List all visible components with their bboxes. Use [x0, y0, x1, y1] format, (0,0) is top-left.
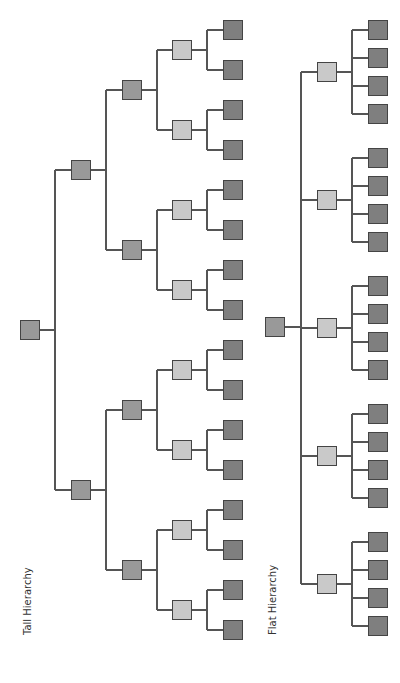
connector-line	[337, 71, 352, 73]
connector-line	[301, 327, 317, 329]
leaf-node	[223, 540, 243, 560]
tree-node	[71, 480, 91, 500]
connector-line	[301, 583, 317, 585]
connector-line	[157, 49, 172, 51]
connector-line	[352, 541, 368, 543]
leaf-node	[368, 560, 388, 580]
connector-line	[285, 326, 301, 328]
connector-line	[352, 497, 368, 499]
connector-line	[157, 369, 172, 371]
connector-line	[352, 241, 368, 243]
connector-line	[157, 529, 172, 531]
connector-line	[352, 441, 368, 443]
connector-line	[352, 369, 368, 371]
connector-line	[192, 369, 207, 371]
leaf-node	[368, 76, 388, 96]
connector-line	[351, 30, 353, 114]
leaf-node	[368, 332, 388, 352]
tree-node	[172, 440, 192, 460]
connector-line	[106, 89, 122, 91]
branch-node	[317, 574, 337, 594]
connector-line	[352, 341, 368, 343]
connector-line	[157, 129, 172, 131]
leaf-node	[368, 204, 388, 224]
branch-node	[317, 190, 337, 210]
connector-line	[351, 414, 353, 498]
connector-line	[157, 449, 172, 451]
connector-line	[351, 158, 353, 242]
connector-line	[142, 569, 157, 571]
tree-node	[122, 400, 142, 420]
connector-line	[55, 489, 71, 491]
connector-line	[206, 270, 208, 310]
connector-line	[352, 185, 368, 187]
connector-line	[207, 309, 223, 311]
leaf-node	[223, 60, 243, 80]
connector-line	[206, 190, 208, 230]
leaf-node	[368, 176, 388, 196]
connector-line	[351, 542, 353, 626]
tree-node	[122, 80, 142, 100]
tree-node	[172, 600, 192, 620]
connector-line	[157, 209, 172, 211]
connector-line	[192, 49, 207, 51]
connector-line	[54, 170, 56, 490]
connector-line	[142, 249, 157, 251]
tree-node	[172, 520, 192, 540]
tree-node	[172, 360, 192, 380]
connector-line	[337, 583, 352, 585]
connector-line	[91, 169, 106, 171]
tree-node	[71, 160, 91, 180]
connector-line	[206, 30, 208, 70]
connector-line	[207, 429, 223, 431]
connector-line	[300, 72, 302, 584]
connector-line	[142, 89, 157, 91]
root-node	[265, 317, 285, 337]
leaf-node	[223, 260, 243, 280]
leaf-node	[368, 588, 388, 608]
connector-line	[352, 597, 368, 599]
leaf-node	[368, 48, 388, 68]
connector-line	[105, 410, 107, 570]
connector-line	[352, 85, 368, 87]
connector-line	[352, 625, 368, 627]
branch-node	[317, 318, 337, 338]
connector-line	[301, 199, 317, 201]
connector-line	[207, 629, 223, 631]
leaf-node	[368, 148, 388, 168]
connector-line	[206, 350, 208, 390]
leaf-node	[368, 488, 388, 508]
connector-line	[206, 590, 208, 630]
connector-line	[352, 113, 368, 115]
connector-line	[91, 489, 106, 491]
connector-line	[156, 530, 158, 610]
connector-line	[351, 286, 353, 370]
flat-hierarchy-label: Flat Hierarchy	[267, 565, 278, 635]
connector-line	[337, 455, 352, 457]
leaf-node	[223, 100, 243, 120]
connector-line	[207, 29, 223, 31]
connector-line	[207, 189, 223, 191]
connector-line	[40, 329, 55, 331]
connector-line	[55, 169, 71, 171]
leaf-node	[368, 460, 388, 480]
connector-line	[105, 90, 107, 250]
connector-line	[207, 109, 223, 111]
connector-line	[192, 209, 207, 211]
connector-line	[207, 149, 223, 151]
leaf-node	[223, 460, 243, 480]
leaf-node	[368, 104, 388, 124]
tree-node	[172, 200, 192, 220]
connector-line	[337, 199, 352, 201]
connector-line	[207, 549, 223, 551]
leaf-node	[223, 380, 243, 400]
branch-node	[317, 62, 337, 82]
connector-line	[352, 569, 368, 571]
tree-node	[172, 120, 192, 140]
connector-line	[206, 510, 208, 550]
connector-line	[301, 455, 317, 457]
leaf-node	[223, 500, 243, 520]
leaf-node	[223, 20, 243, 40]
leaf-node	[223, 340, 243, 360]
leaf-node	[368, 360, 388, 380]
